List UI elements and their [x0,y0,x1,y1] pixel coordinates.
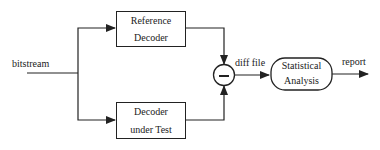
dut-line1: Decoder [117,106,185,118]
reference-decoder-block: Reference Decoder [116,11,186,47]
arrow-to-dut [78,73,115,120]
analysis-line2: Analysis [271,75,332,87]
decoder-under-test-block: Decoder under Test [116,102,186,139]
diff-file-label: diff file [235,57,265,69]
arrow-dut-to-subtractor [186,86,224,120]
bitstream-label: bitstream [12,58,49,70]
reference-decoder-line2: Decoder [117,32,185,44]
arrow-to-reference [78,28,115,73]
arrow-reference-to-subtractor [186,28,224,64]
dut-line2: under Test [117,124,185,136]
reference-decoder-line1: Reference [117,15,185,27]
report-label: report [342,56,366,68]
analysis-line1: Statistical [271,60,332,72]
